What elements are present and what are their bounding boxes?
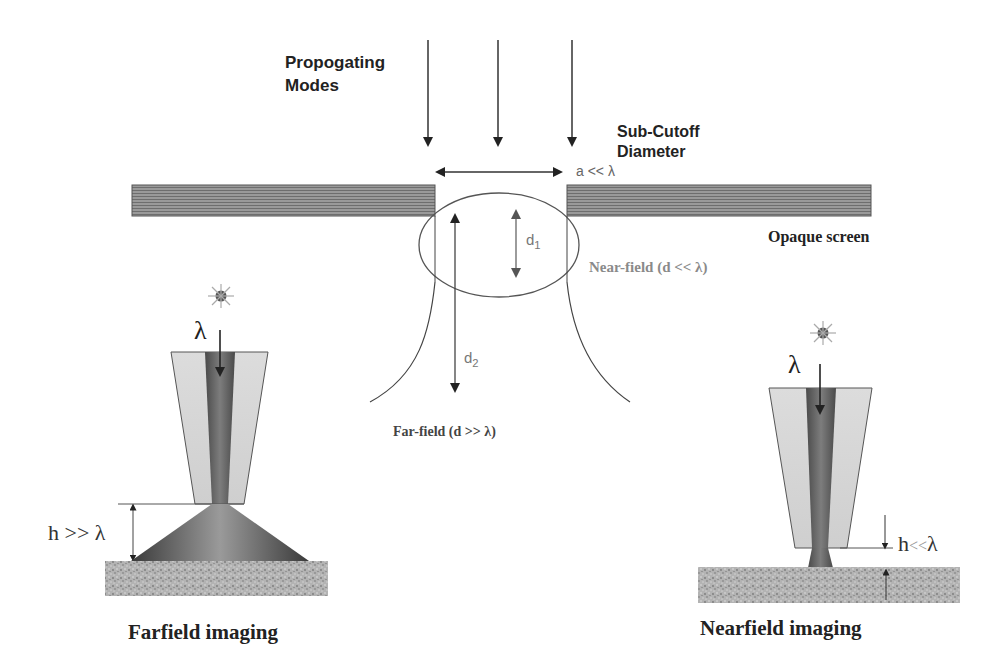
near-field-ellipse	[419, 193, 579, 297]
near-field-diagram: Propogating Modes Sub-Cutoff Diameter a …	[0, 0, 1002, 672]
near-field-label: Near-field (d << λ)	[589, 260, 707, 275]
propagating-modes-label: Propogating Modes	[285, 54, 385, 94]
d1-subscript: 1	[534, 239, 540, 251]
light-source-icon	[208, 284, 234, 308]
sub-cutoff-line1: Sub-Cutoff	[617, 124, 700, 140]
h-far-label: h >> λ	[48, 522, 105, 544]
sub-cutoff-line2: Diameter	[617, 144, 700, 160]
nearfield-setup	[698, 321, 960, 603]
farfield-setup	[105, 284, 328, 596]
h-near-relation: <<	[909, 537, 927, 554]
farfield-imaging-caption: Farfield imaging	[128, 622, 278, 643]
far-field-label: Far-field (d >> λ)	[393, 425, 496, 439]
propagating-modes-line2: Modes	[285, 77, 385, 94]
opaque-screen	[132, 185, 871, 216]
propagating-modes-line1: Propogating	[285, 54, 385, 71]
sub-cutoff-diameter-label: Sub-Cutoff Diameter	[617, 124, 700, 160]
nearfield-imaging-caption: Nearfield imaging	[700, 618, 862, 639]
h-near-label: h<<λ	[898, 533, 938, 555]
d2-label: d2	[464, 350, 479, 369]
d1-label: d1	[526, 232, 541, 251]
h-near-h: h	[898, 531, 909, 556]
diagram-canvas	[0, 0, 1002, 672]
lambda-left-label: λ	[194, 318, 207, 344]
aperture-size-label: a << λ	[576, 164, 615, 178]
far-field-spread-curves	[370, 282, 630, 402]
h-near-lambda: λ	[927, 531, 938, 556]
opaque-screen-label: Opaque screen	[768, 229, 869, 245]
propagating-mode-arrows	[428, 40, 572, 142]
lambda-right-label: λ	[788, 352, 801, 378]
d2-subscript: 2	[472, 357, 478, 369]
light-source-icon	[810, 321, 836, 345]
